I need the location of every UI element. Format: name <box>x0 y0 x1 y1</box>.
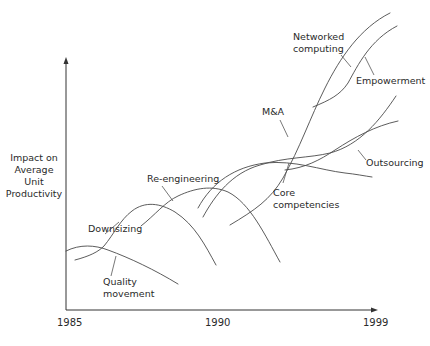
label-outsourcing: Outsourcing <box>366 157 424 169</box>
leader-re-engineering <box>162 186 173 201</box>
x-tick-1990: 1990 <box>205 317 230 328</box>
label-empowerment: Empowerment <box>356 75 425 87</box>
x-tick-1999: 1999 <box>363 317 388 328</box>
leader-core <box>283 163 289 183</box>
label-core-competencies: Core competencies <box>273 187 339 211</box>
label-line: computing <box>293 43 344 55</box>
y-axis-label-line: Productivity <box>4 188 64 200</box>
label-line: competencies <box>273 199 339 211</box>
y-axis-label-line: Impact on <box>4 152 64 164</box>
y-axis-label-line: Average <box>4 164 64 176</box>
y-axis-arrow-icon <box>64 57 69 64</box>
leader-outsourcing <box>358 150 366 160</box>
leader-ma <box>280 120 288 137</box>
leader-quality <box>111 256 116 276</box>
label-downsizing: Downsizing <box>88 223 142 235</box>
label-ma: M&A <box>262 106 284 118</box>
label-line: movement <box>103 288 154 300</box>
label-line: Core <box>273 187 339 199</box>
x-axis-arrow-icon <box>371 308 378 313</box>
leader-empowerment <box>365 57 374 75</box>
label-re-engineering: Re-engineering <box>147 173 219 185</box>
curve-re-engineering <box>141 188 280 262</box>
label-line: Quality <box>103 276 154 288</box>
y-axis-label-line: Unit <box>4 176 64 188</box>
label-quality-movement: Quality movement <box>103 276 154 300</box>
label-line: Networked <box>293 31 344 43</box>
label-networked-computing: Networked computing <box>293 31 344 55</box>
x-tick-1985: 1985 <box>57 317 82 328</box>
leader-networked <box>341 55 351 67</box>
y-axis-label: Impact on Average Unit Productivity <box>4 152 64 200</box>
